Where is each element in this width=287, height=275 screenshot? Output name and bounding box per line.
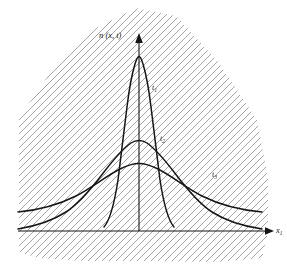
svg-text:x1: x1 [275, 225, 283, 236]
x-axis-label-sub: 1 [280, 230, 283, 236]
curve-label-t2-sub: 2 [162, 138, 165, 144]
curve-label-t1-sub: 1 [154, 87, 157, 93]
x-axis-arrowhead [265, 227, 274, 235]
curve-label-t3-sub: 3 [213, 174, 217, 180]
x-axis-label: x1 [275, 225, 283, 236]
figure-container: n (x, t) x1 t1 t2 t3 [0, 0, 287, 275]
hatched-region [0, 0, 287, 275]
diffusion-plot-svg: n (x, t) x1 t1 t2 t3 [0, 0, 287, 275]
y-axis-label: n (x, t) [99, 30, 122, 40]
